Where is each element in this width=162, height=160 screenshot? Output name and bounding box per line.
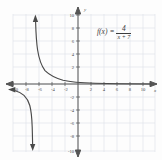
y-tick-label: 2 (72, 65, 75, 70)
y-tick-label: -4 (70, 108, 75, 113)
formula-fraction: 4 x + 7 (116, 25, 131, 40)
formula-denominator: x + 7 (116, 34, 131, 40)
x-tick-label: 6 (116, 87, 119, 92)
y-axis-arrow-up (75, 7, 80, 14)
x-axis-arrow-left (6, 81, 13, 86)
x-axis-label: x (153, 88, 157, 93)
x-tick-label: -2 (64, 87, 69, 92)
y-tick-label: -8 (70, 134, 75, 139)
x-tick-label: 8 (129, 87, 132, 92)
formula-fx: f(x) (97, 27, 107, 36)
x-tick-label: -4 (51, 87, 56, 92)
y-axis-label: y (83, 7, 87, 12)
curve-right-arrow (33, 15, 38, 23)
x-tick-label: -6 (38, 87, 43, 92)
y-tick-label: -10 (68, 149, 75, 154)
y-tick-label: -6 (70, 121, 75, 126)
curve-left-arrow (30, 144, 35, 151)
y-tick-label: 4 (72, 52, 75, 57)
x-tick-labels: -10 -8 -6 -4 -2 2 4 6 8 10 (12, 87, 146, 92)
formula-equals: = (109, 27, 114, 36)
function-formula: f(x)= 4 x + 7 (97, 25, 131, 40)
graph-figure: -10 -8 -6 -4 -2 2 4 6 8 10 10 8 6 4 2 -2… (0, 0, 162, 160)
x-tick-label: 4 (103, 87, 106, 92)
y-tick-label: 8 (72, 26, 75, 31)
x-tick-label: 2 (90, 87, 93, 92)
y-tick-label: 10 (69, 13, 74, 18)
x-tick-label: -8 (25, 87, 30, 92)
axis-lines (6, 7, 157, 157)
curve-right-branch (36, 22, 151, 84)
coordinate-plane-svg: -10 -8 -6 -4 -2 2 4 6 8 10 10 8 6 4 2 -2… (0, 0, 162, 160)
x-tick-label: 10 (141, 87, 146, 92)
formula-numerator: 4 (116, 25, 131, 34)
y-tick-label: 6 (72, 39, 75, 44)
y-tick-label: -2 (70, 95, 75, 100)
